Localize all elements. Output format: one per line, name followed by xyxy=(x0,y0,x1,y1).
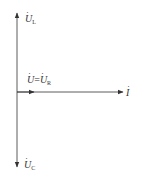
label-u-eq-ur: U=UR xyxy=(27,75,51,88)
uc-symbol: U xyxy=(24,159,31,170)
i-symbol: I xyxy=(126,87,129,98)
ur-sub: R xyxy=(47,80,51,86)
label-uc: UC xyxy=(24,160,35,173)
label-ul: UL xyxy=(25,14,36,27)
ur-symbol: U xyxy=(40,74,47,85)
u-symbol: U xyxy=(27,74,34,85)
uc-sub: C xyxy=(31,165,35,171)
ul-sub: L xyxy=(32,19,36,25)
label-i: I xyxy=(126,88,129,98)
ul-symbol: U xyxy=(25,13,32,24)
